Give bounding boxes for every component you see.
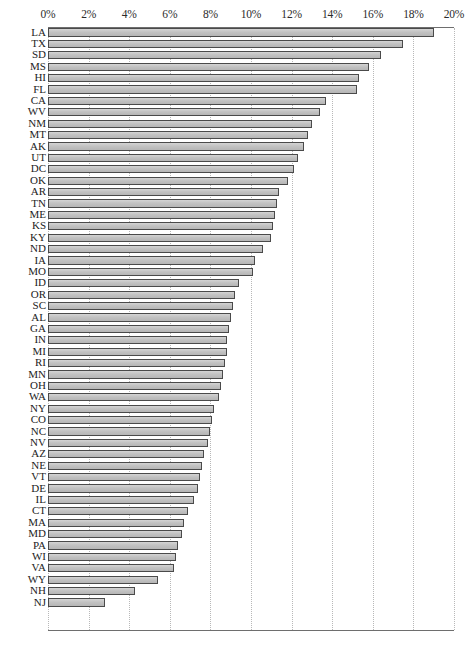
bar-row: WI [0, 551, 471, 562]
bar-vt [48, 473, 200, 481]
category-label-mt: MT [0, 128, 46, 140]
category-label-mi: MI [0, 345, 46, 357]
category-label-nm: NM [0, 117, 46, 129]
bar-row: NC [0, 426, 471, 437]
x-axis-tick-label: 10% [241, 8, 261, 20]
bar-row: SD [0, 50, 471, 61]
category-label-wv: WV [0, 105, 46, 117]
x-axis-tick-label: 4% [122, 8, 137, 20]
bar-row: CO [0, 415, 471, 426]
bar-row: AR [0, 187, 471, 198]
bar-wi [48, 553, 176, 561]
bar-row: PA [0, 540, 471, 551]
x-axis-tick-label: 14% [322, 8, 342, 20]
x-axis: 0%2%4%6%8%10%12%14%16%18%20% [0, 0, 471, 26]
category-label-nh: NH [0, 584, 46, 596]
bar-row: TX [0, 38, 471, 49]
x-axis-tick-label: 20% [444, 8, 464, 20]
bar-row: DE [0, 483, 471, 494]
bar-row: KY [0, 232, 471, 243]
bar-row: OH [0, 380, 471, 391]
bar-row: TN [0, 198, 471, 209]
bar-row: CT [0, 506, 471, 517]
category-label-pa: PA [0, 539, 46, 551]
category-label-nd: ND [0, 242, 46, 254]
bar-row: UT [0, 152, 471, 163]
category-label-va: VA [0, 561, 46, 573]
bar-row: WY [0, 574, 471, 585]
bar-row: NH [0, 586, 471, 597]
bar-row: FL [0, 84, 471, 95]
bar-nv [48, 439, 208, 447]
category-label-ri: RI [0, 356, 46, 368]
bar-pa [48, 541, 178, 549]
bar-row: SC [0, 301, 471, 312]
bar-ri [48, 359, 225, 367]
category-label-mo: MO [0, 265, 46, 277]
bar-va [48, 564, 174, 572]
category-label-tx: TX [0, 37, 46, 49]
bar-row: IL [0, 494, 471, 505]
category-label-me: ME [0, 208, 46, 220]
bar-ma [48, 519, 184, 527]
category-label-id: ID [0, 276, 46, 288]
x-axis-tick-label: 12% [281, 8, 301, 20]
bar-row: MT [0, 130, 471, 141]
category-label-ne: NE [0, 459, 46, 471]
bar-row: NJ [0, 597, 471, 608]
category-label-nv: NV [0, 436, 46, 448]
bar-row: IN [0, 335, 471, 346]
bar-sc [48, 302, 233, 310]
category-label-nj: NJ [0, 596, 46, 608]
category-label-vt: VT [0, 470, 46, 482]
bar-row: NM [0, 118, 471, 129]
bar-row: OR [0, 289, 471, 300]
category-label-mn: MN [0, 368, 46, 380]
bar-sd [48, 51, 381, 59]
bar-ne [48, 462, 202, 470]
bar-la [48, 28, 434, 36]
bar-or [48, 291, 235, 299]
bar-ga [48, 325, 229, 333]
category-label-la: LA [0, 26, 46, 38]
category-label-ok: OK [0, 174, 46, 186]
bar-me [48, 211, 275, 219]
bar-hi [48, 74, 359, 82]
bar-row: HI [0, 73, 471, 84]
bar-wa [48, 393, 219, 401]
bar-nc [48, 427, 210, 435]
bar-row: NY [0, 403, 471, 414]
category-label-fl: FL [0, 83, 46, 95]
bar-nh [48, 587, 135, 595]
bar-row: CA [0, 95, 471, 106]
category-label-ms: MS [0, 60, 46, 72]
bar-row: KS [0, 221, 471, 232]
bar-row: WA [0, 392, 471, 403]
category-label-nc: NC [0, 425, 46, 437]
bar-de [48, 484, 198, 492]
bar-ar [48, 188, 279, 196]
bar-ut [48, 154, 298, 162]
bar-md [48, 530, 182, 538]
bar-row: ME [0, 209, 471, 220]
bar-ms [48, 63, 369, 71]
category-label-ky: KY [0, 231, 46, 243]
bar-fl [48, 85, 357, 93]
category-label-sd: SD [0, 48, 46, 60]
category-label-wi: WI [0, 550, 46, 562]
bar-row: GA [0, 323, 471, 334]
category-label-sc: SC [0, 299, 46, 311]
bar-ok [48, 177, 288, 185]
bar-nd [48, 245, 263, 253]
bar-mo [48, 268, 253, 276]
category-label-in: IN [0, 333, 46, 345]
category-label-ga: GA [0, 322, 46, 334]
category-label-il: IL [0, 493, 46, 505]
category-label-de: DE [0, 482, 46, 494]
bar-row: MA [0, 517, 471, 528]
bar-chart: 0%2%4%6%8%10%12%14%16%18%20% LATXSDMSHIF… [0, 0, 471, 645]
category-label-ma: MA [0, 516, 46, 528]
bar-row: MN [0, 369, 471, 380]
category-label-tn: TN [0, 197, 46, 209]
category-label-ca: CA [0, 94, 46, 106]
